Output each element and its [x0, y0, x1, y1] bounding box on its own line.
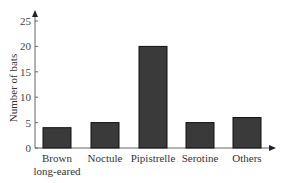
- y-tick-label: 25: [20, 15, 32, 27]
- y-tick-label: 10: [20, 91, 32, 103]
- category-label: Serotine: [182, 152, 219, 164]
- x-axis-arrow-icon: [269, 145, 276, 151]
- category-label: Noctule: [88, 152, 123, 164]
- category-label: Others: [232, 152, 261, 164]
- category-labels: Brownlong-earedNoctulePipistrelleSerotin…: [33, 152, 261, 177]
- category-label: Brown: [42, 152, 72, 164]
- bar-serotine: [186, 123, 214, 148]
- y-tick-label: 0: [26, 142, 32, 154]
- bar-chart: 0510152025 Brownlong-earedNoctulePipistr…: [0, 0, 282, 183]
- bars: [43, 46, 261, 148]
- bar-others: [233, 118, 261, 148]
- category-label: long-eared: [33, 165, 81, 177]
- y-axis-title: Number of bats: [7, 54, 19, 122]
- y-axis: 0510152025: [20, 10, 38, 154]
- bar-noctule: [91, 123, 119, 148]
- category-label: Pipistrelle: [131, 152, 176, 164]
- y-tick-label: 5: [26, 117, 32, 129]
- bar-pipistrelle: [139, 46, 167, 148]
- y-tick-label: 20: [20, 40, 32, 52]
- y-axis-arrow-icon: [32, 10, 38, 17]
- y-tick-label: 15: [20, 66, 32, 78]
- bar-brown-long-eared: [43, 128, 71, 148]
